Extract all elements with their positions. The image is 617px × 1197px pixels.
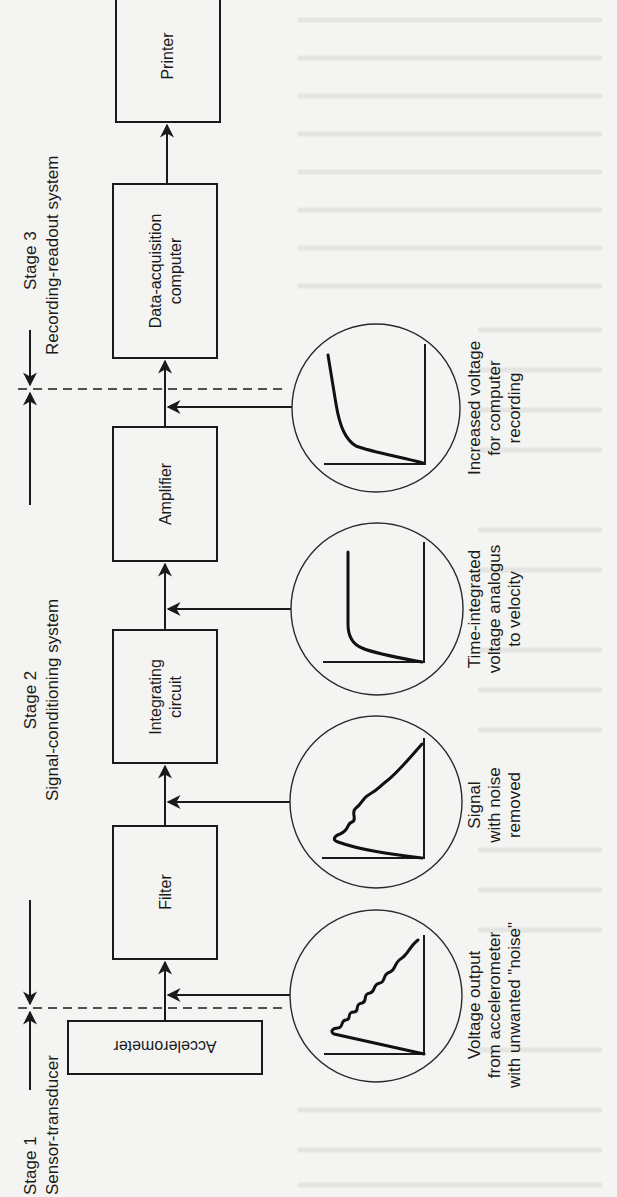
amplified-caption-line1: Increased voltage [465, 341, 484, 475]
stage-1-title: Stage 1 [21, 1136, 40, 1195]
stage-3-subtitle: Recording-readout system [43, 156, 62, 355]
raw-caption-line1: Voltage output [465, 950, 484, 1059]
amplified-signal-scope [292, 324, 460, 492]
filter-label: Filter [157, 874, 174, 910]
amplified-signal-waveform [328, 355, 423, 463]
page-bleed-through [300, 20, 600, 1185]
integrated-signal-scope [291, 523, 463, 695]
stage-3-title: Stage 3 [21, 231, 40, 290]
raw-caption-line3: with unwanted "noise" [505, 922, 524, 1089]
raw-caption-line2: from accelerometer [485, 931, 504, 1078]
integrated-caption-line3: to velocity [505, 571, 524, 647]
accelerometer-label: Accelerometer [113, 1038, 217, 1055]
filtered-caption-line2: with noise [485, 767, 504, 844]
filtered-caption-line3: removed [505, 772, 524, 838]
daq-label-line1: Data-acquisition [147, 214, 164, 329]
printer-label: Printer [159, 32, 176, 80]
integrated-signal-waveform [348, 552, 422, 662]
integrated-caption-line1: Time-integrated [465, 550, 484, 668]
integrated-caption-line2: voltage analogus [485, 545, 504, 674]
filtered-signal-scope [290, 716, 462, 888]
stage-1-label: Stage 1 Sensor-transducer [21, 1055, 62, 1195]
raw-signal-scope [290, 910, 462, 1082]
filtered-caption-line1: Signal [465, 781, 484, 828]
amplifier-label: Amplifier [157, 462, 174, 525]
filter-block: Filter [113, 826, 217, 959]
integrated-signal-axes [323, 542, 424, 662]
stage-1-subtitle: Sensor-transducer [43, 1055, 62, 1195]
filtered-signal-waveform [334, 744, 422, 858]
amplified-signal-caption: Increased voltage for computer recording [465, 341, 524, 475]
accelerometer-block: Accelerometer [68, 1021, 262, 1074]
integrated-signal-caption: Time-integrated voltage analogus to velo… [465, 545, 524, 674]
stage-2-title: Stage 2 [21, 671, 40, 730]
integrating-label-line1: Integrating [147, 659, 164, 735]
amplifier-block: Amplifier [113, 427, 217, 561]
printer-block: Printer [116, 0, 220, 122]
raw-signal-caption: Voltage output from accelerometer with u… [465, 922, 524, 1089]
integrating-circuit-block: Integrating circuit [113, 630, 217, 763]
data-acquisition-block: Data-acquisition computer [113, 184, 217, 358]
stage-2-subtitle: Signal-conditioning system [43, 599, 62, 801]
daq-label-line2: computer [167, 237, 184, 304]
raw-signal-waveform [332, 940, 424, 1054]
filtered-signal-axes [322, 738, 424, 858]
amplified-caption-line3: recording [505, 373, 524, 444]
signal-taps [168, 407, 292, 995]
integrating-label-line2: circuit [167, 676, 184, 718]
amplified-signal-axes [324, 344, 425, 464]
signal-chain-diagram: Stage 1 Sensor-transducer Stage 2 Signal… [0, 0, 617, 1197]
stage-3-label: Stage 3 Recording-readout system [21, 156, 62, 355]
stage-2-label: Stage 2 Signal-conditioning system [21, 599, 62, 801]
amplified-caption-line2: for computer [485, 360, 504, 456]
filtered-signal-caption: Signal with noise removed [465, 767, 524, 844]
